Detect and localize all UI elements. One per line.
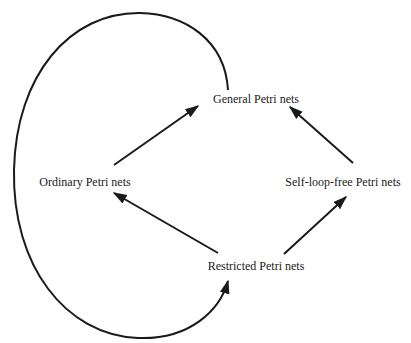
diagram-edges [0,0,411,343]
edge-selfloopfree-to-general [290,107,353,163]
node-restricted-petri-nets: Restricted Petri nets [208,260,305,272]
node-self-loop-free-petri-nets: Self-loop-free Petri nets [285,176,400,188]
node-ordinary-petri-nets: Ordinary Petri nets [39,176,130,188]
edge-restricted-to-ordinary [114,193,218,253]
edge-ordinary-to-general [114,106,198,165]
edge-restricted-to-selfloopfree [284,197,346,254]
petri-net-hierarchy-diagram: General Petri nets Ordinary Petri nets S… [0,0,411,343]
node-general-petri-nets: General Petri nets [213,93,299,105]
